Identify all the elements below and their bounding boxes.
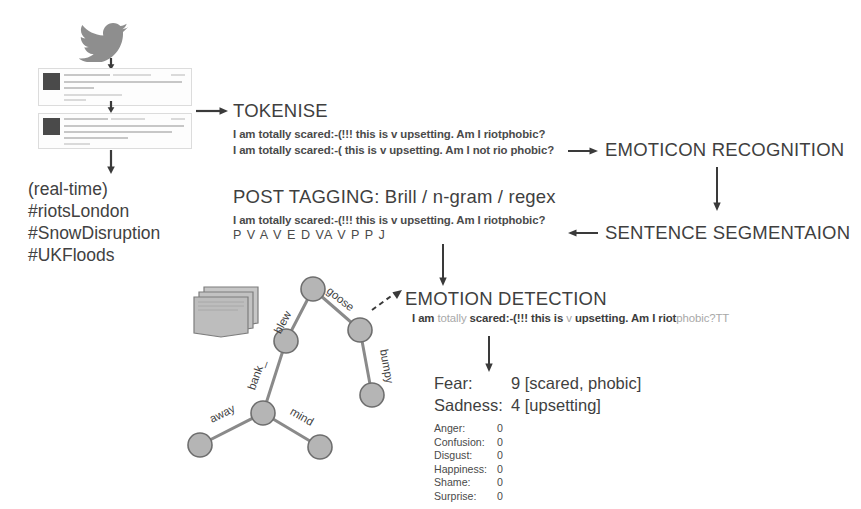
- emotion-label: Happiness:: [434, 464, 495, 476]
- emotion-label: Anger:: [434, 423, 495, 435]
- arrow-emoticon-to-segmentation: [710, 167, 724, 211]
- emotion-label: Disgust:: [434, 450, 495, 462]
- emotion-score-panel: Fear: 9 [scared, phobic] Sadness: 4 [ups…: [432, 372, 643, 505]
- emotion-value: 0: [497, 464, 503, 476]
- sentence-part: upsetting. Am I riot: [575, 312, 676, 324]
- emotion-value: 0: [497, 423, 503, 435]
- avatar: [43, 73, 60, 90]
- tree-node: [360, 383, 384, 407]
- table-row: Confusion:0: [434, 437, 503, 449]
- primary-emotion-table: Fear: 9 [scared, phobic] Sadness: 4 [ups…: [432, 372, 643, 417]
- avatar: [43, 118, 60, 135]
- arrow-tweets-to-stream: [104, 150, 118, 174]
- tree-edge-label: goose: [324, 284, 356, 313]
- tree-edge-label: away: [207, 402, 237, 425]
- sentence-part: v: [566, 312, 575, 324]
- stage-title-emotion-detection: EMOTION DETECTION: [405, 288, 607, 310]
- secondary-emotion-table: Anger:0 Confusion:0 Disgust:0 Happiness:…: [432, 421, 505, 505]
- emotion-label: Fear:: [434, 374, 509, 394]
- emotion-value: 0: [497, 450, 503, 462]
- tree-node: [348, 318, 372, 342]
- tree-node: [251, 401, 275, 425]
- emotion-label: Confusion:: [434, 437, 495, 449]
- tweet-card[interactable]: [38, 113, 192, 149]
- stage-title-tokenise: TOKENISE: [233, 100, 328, 122]
- table-row: Surprise:0: [434, 491, 503, 503]
- postagging-sentence: I am totally scared:-(!!! this is v upse…: [233, 214, 545, 226]
- arrow-segmentation-to-postagging: [568, 226, 598, 240]
- stream-line: #riotsLondon: [28, 200, 160, 222]
- emotion-value: 9 [scared, phobic]: [511, 374, 641, 394]
- sentence-part: totally: [437, 312, 469, 324]
- emotion-value: 0: [497, 491, 503, 503]
- emotion-value: 4 [upsetting]: [511, 396, 641, 416]
- table-row: Anger:0: [434, 423, 503, 435]
- table-row: Fear: 9 [scared, phobic]: [434, 374, 641, 394]
- arrow-tree-to-emotion-dashed: [372, 290, 406, 312]
- tree-node: [188, 433, 212, 457]
- tree-edge-label: bank_: [245, 357, 267, 391]
- stage-title-sentence-segmentation: SENTENCE SEGMENTAION: [605, 222, 850, 244]
- emotion-label: Surprise:: [434, 491, 495, 503]
- stream-line: #SnowDisruption: [28, 222, 160, 244]
- stream-line: #UKFloods: [28, 244, 160, 266]
- postagging-tags: P V A V E D VA V P P J: [233, 228, 386, 242]
- tokenise-output-line: I am totally scared:-(!!! this is v upse…: [233, 128, 545, 140]
- twitter-bird-icon: [78, 20, 130, 62]
- tree-edge-label: bumpy: [378, 348, 396, 384]
- tree-node: [308, 435, 332, 459]
- table-row: Sadness: 4 [upsetting]: [434, 396, 641, 416]
- arrow-emotion-to-scores: [482, 336, 496, 372]
- stage-title-emoticon-recognition: EMOTICON RECOGNITION: [605, 139, 844, 161]
- table-row: Happiness:0: [434, 464, 503, 476]
- table-row: Disgust:0: [434, 450, 503, 462]
- stream-line: (real-time): [28, 178, 160, 200]
- arrow-postagging-to-emotion: [436, 244, 450, 286]
- sentence-part: scared:-(!!! this is: [470, 312, 567, 324]
- emotion-label: Shame:: [434, 477, 495, 489]
- sentence-part: I am: [412, 312, 437, 324]
- tree-edge-label: mind: [288, 405, 316, 428]
- arrow-tweets-to-tokenise: [196, 104, 228, 118]
- stage-title-post-tagging: POST TAGGING: Brill / n-gram / regex: [233, 186, 556, 208]
- realtime-stream-list: (real-time) #riotsLondon #SnowDisruption…: [28, 178, 160, 266]
- table-row: Shame:0: [434, 477, 503, 489]
- arrow-tokenise-to-emoticon: [568, 144, 598, 158]
- emotion-value: 0: [497, 437, 503, 449]
- tree-node: [301, 277, 325, 301]
- arrow-tweet1-to-tweet2: [104, 101, 118, 113]
- emotion-label: Sadness:: [434, 396, 509, 416]
- tokenise-output-line: I am totally scared:-( this is v upsetti…: [233, 144, 554, 156]
- emotion-detection-sentence: I am totally scared:-(!!! this is v upse…: [412, 312, 729, 324]
- sentence-part: phobic?TT: [676, 312, 729, 324]
- emotion-value: 0: [497, 477, 503, 489]
